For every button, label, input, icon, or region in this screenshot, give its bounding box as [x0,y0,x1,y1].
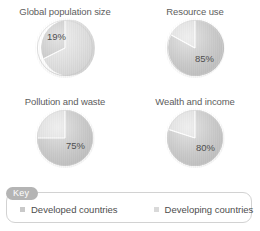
pie-body [165,18,225,78]
pie-value-label: 85% [195,54,214,64]
pie-chart-global-population-size: 19% [35,18,95,78]
pie-svg [165,18,225,78]
legend-swatch-icon [20,207,25,212]
chart-title: Wealth and income [155,96,234,107]
legend-key-tab: Key [6,187,38,200]
pie-svg [35,108,95,168]
legend-item-developing-countries: Developing countries [154,204,254,215]
pie-chart-wealth-and-income: 80% [165,108,225,168]
chart-title: Resource use [166,6,223,17]
pie-body [35,18,95,78]
chart-panel-global-population-size: Global population size 19% [0,0,130,90]
pie-svg [35,18,95,78]
legend-item-label: Developing countries [165,204,254,215]
pie-chart-grid: Global population size 19% Resource use [0,0,260,180]
legend-item-label: Developed countries [31,204,118,215]
pie-chart-pollution-and-waste: 75% [35,108,95,168]
legend-swatch-icon [154,207,159,212]
pie-value-label: 19% [47,32,66,42]
chart-panel-resource-use: Resource use 85% [130,0,260,90]
chart-title: Global population size [19,6,110,17]
pie-svg [165,108,225,168]
legend-items: Developed countries Developing countries [7,204,253,215]
legend-key-box: Key Developed countries Developing count… [6,192,252,223]
pie-value-label: 80% [196,143,215,153]
chart-panel-pollution-and-waste: Pollution and waste 75% [0,90,130,180]
pie-body [165,108,225,168]
pie-value-label: 75% [66,141,85,151]
pie-chart-resource-use: 85% [165,18,225,78]
chart-panel-wealth-and-income: Wealth and income 80% [130,90,260,180]
chart-title: Pollution and waste [25,96,106,107]
legend-item-developed-countries: Developed countries [20,204,118,215]
pie-body [35,108,95,168]
